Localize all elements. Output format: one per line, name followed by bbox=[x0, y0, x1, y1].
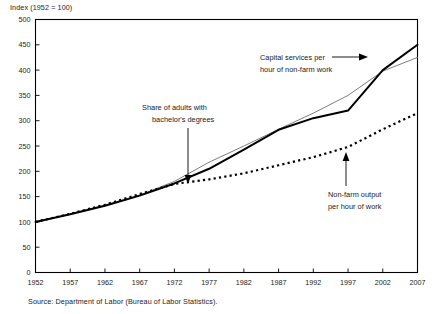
y-axis-tick-label: 450 bbox=[19, 40, 31, 49]
y-axis-tick-label: 300 bbox=[19, 116, 31, 125]
x-axis-tick-label: 1957 bbox=[62, 278, 78, 287]
x-axis-tick-label: 1952 bbox=[28, 278, 44, 287]
y-axis-tick-label: 200 bbox=[19, 167, 31, 176]
y-axis-tick-label: 150 bbox=[19, 192, 31, 201]
annotation-capital-line2: hour of non-farm work bbox=[260, 65, 333, 74]
y-axis-tick-label: 400 bbox=[19, 66, 31, 75]
y-axis-tick-label: 500 bbox=[19, 15, 31, 24]
annotation-bachelors-line2: bachelor's degrees bbox=[152, 115, 215, 124]
x-axis-tick-label: 1962 bbox=[97, 278, 113, 287]
y-axis-tick-label: 350 bbox=[19, 91, 31, 100]
y-axis-tick-label: 100 bbox=[19, 218, 31, 227]
x-axis-tick-label: 1987 bbox=[271, 278, 287, 287]
x-axis-tick-group: 1952195719621967197219771982198719921997… bbox=[28, 269, 426, 287]
annotation-capital-services: Capital services per hour of non-farm wo… bbox=[260, 53, 368, 74]
annotation-output-line2: per hour of work bbox=[328, 202, 382, 211]
x-axis-tick-label: 2007 bbox=[410, 278, 426, 287]
annotation-output-line1: Non-farm output bbox=[328, 190, 381, 199]
annotation-capital-line1: Capital services per bbox=[260, 53, 325, 62]
y-axis-tick-label: 50 bbox=[23, 243, 31, 252]
annotation-nonfarm-output: Non-farm output per hour of work bbox=[328, 152, 382, 211]
x-axis-tick-label: 1992 bbox=[305, 278, 321, 287]
source-note: Source: Department of Labor (Bureau of L… bbox=[28, 297, 217, 306]
chart-plot-svg: 050100150200250300350400450500 195219571… bbox=[0, 0, 436, 314]
x-axis-tick-label: 1967 bbox=[132, 278, 148, 287]
annotation-output-arrowhead-up bbox=[343, 152, 350, 161]
y-axis-tick-label: 250 bbox=[19, 142, 31, 151]
annotation-capital-arrowhead-right bbox=[359, 54, 368, 61]
y-axis-tick-group: 050100150200250300350400450500 bbox=[19, 15, 40, 277]
annotation-bachelors-line1: Share of adults with bbox=[142, 103, 207, 112]
x-axis-tick-label: 1982 bbox=[236, 278, 252, 287]
x-axis-tick-label: 1997 bbox=[340, 278, 356, 287]
x-axis-tick-label: 2002 bbox=[375, 278, 391, 287]
y-axis-tick-label: 0 bbox=[27, 268, 31, 277]
x-axis-tick-label: 1972 bbox=[166, 278, 182, 287]
chart-figure: Index (1952 = 100) 050100150200250300350… bbox=[0, 0, 436, 314]
x-axis-tick-label: 1977 bbox=[201, 278, 217, 287]
